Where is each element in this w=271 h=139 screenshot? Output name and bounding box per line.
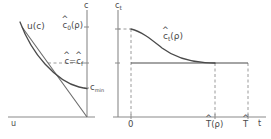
c-base: c [90,82,95,92]
subscript-zero: 0 [67,24,71,31]
c-hat-glyph-b: ^c [76,57,81,66]
right-panel-ticks [115,29,248,119]
right-y-axis-label: ct [115,2,122,10]
rho-argument: (ρ) [71,20,83,30]
left-tick-label-c0-rho: ^c0(ρ) [62,21,83,30]
left-y-axis-label: c [84,2,88,10]
c-hat-glyph: ^c [62,21,67,30]
subscript-f: f [81,60,83,67]
subscript-t: t [168,35,170,42]
left-tick-label-cmin: cmin [90,83,104,92]
T-hat-glyph: ^T [243,120,248,129]
subscript-t: t [119,4,121,11]
c-hat-glyph-a: ^c [64,57,69,66]
right-x-tick-label-origin: 0 [128,120,133,129]
tangent-line [22,27,87,117]
T-hat-glyph: ^T [206,120,211,129]
right-x-tick-label-terminal-time: ^T [243,120,248,129]
left-x-axis-label: u [11,120,16,128]
hat-accent-icon: ^ [162,27,169,35]
right-x-tick-label-switch-time: ^T(ρ) [206,120,223,129]
consumption-path-curve-label: ^ct(ρ) [163,32,183,41]
hat-accent-icon: ^ [61,16,68,24]
hat-accent-icon: ^ [63,52,70,60]
subscript-min: min [95,87,104,93]
utility-curve-label: u(c) [27,22,45,31]
rho-argument: (ρ) [211,119,223,129]
hat-accent-icon: ^ [205,115,212,123]
right-panel-guides [118,29,248,117]
right-x-axis-label: t [258,120,261,128]
rho-argument: (ρ) [170,31,183,41]
figure-canvas: c u u(c) ^c0(ρ) ^c=^cf cmin ct t ^ct(ρ) … [0,0,271,139]
hat-accent-icon: ^ [242,115,249,123]
left-tick-label-chat-equals-chatf: ^c=^cf [64,57,83,66]
hat-accent-icon: ^ [75,52,82,60]
